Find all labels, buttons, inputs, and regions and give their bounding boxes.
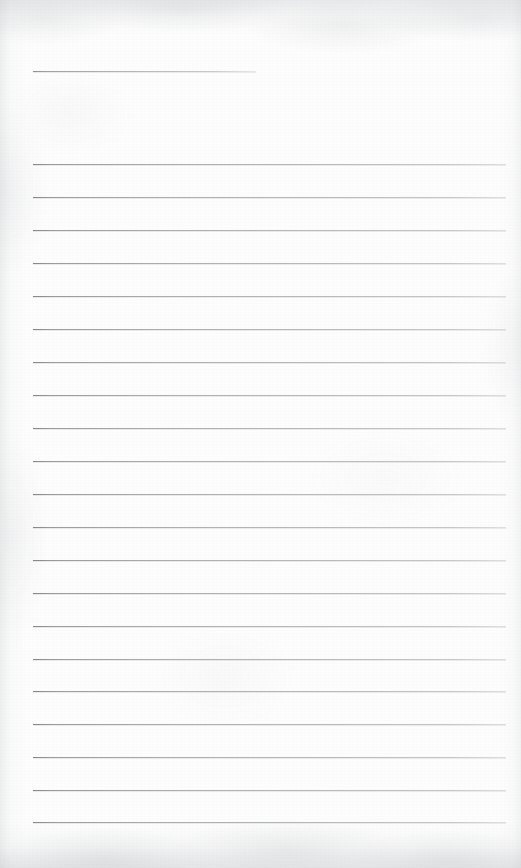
scanned-page [0,0,521,868]
ruled-line [33,230,506,231]
ruled-line [33,659,506,660]
ruled-line [33,790,506,791]
ruled-line [33,626,506,627]
ruled-line [33,527,506,528]
ruled-line [33,428,506,429]
ruled-line [33,329,506,330]
ruled-line [33,164,506,165]
ruled-line [33,822,506,823]
ruled-lines-area [0,0,521,868]
ruled-line [33,395,506,396]
ruled-line [33,263,506,264]
ruled-line [33,296,506,297]
ruled-line [33,757,506,758]
ruled-line [33,494,506,495]
ruled-line [33,724,506,725]
ruled-line [33,691,506,692]
ruled-line [33,197,506,198]
ruled-line [33,560,506,561]
ruled-line [33,362,506,363]
ruled-line [33,461,506,462]
ruled-line [33,593,506,594]
